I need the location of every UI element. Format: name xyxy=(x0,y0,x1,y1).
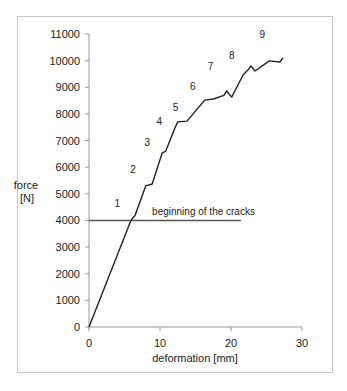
annotations: 123456789 xyxy=(115,29,266,209)
crack-stage-label: 7 xyxy=(208,61,214,72)
crack-stage-label: 1 xyxy=(115,198,121,209)
y-axis-title-line2: [N] xyxy=(20,192,34,204)
y-tick-label: 7000 xyxy=(56,135,80,147)
y-axis: 0100020003000400050006000700080009000100… xyxy=(49,28,89,333)
crack-stage-label: 8 xyxy=(229,50,235,61)
x-tick-label: 10 xyxy=(154,337,166,349)
y-tick-label: 5000 xyxy=(56,188,80,200)
cracks-label: beginning of the cracks xyxy=(152,206,255,217)
force-curve xyxy=(89,58,283,327)
crack-stage-label: 4 xyxy=(157,116,163,127)
y-axis-title-line1: force xyxy=(14,179,38,191)
y-tick-label: 2000 xyxy=(56,268,80,280)
y-tick-label: 10000 xyxy=(49,55,80,67)
y-tick-label: 6000 xyxy=(56,161,80,173)
crack-stage-label: 2 xyxy=(130,164,136,175)
y-tick-label: 4000 xyxy=(56,214,80,226)
x-tick-label: 30 xyxy=(296,337,308,349)
crack-stage-label: 3 xyxy=(144,137,150,148)
y-tick-label: 0 xyxy=(74,321,80,333)
x-axis-title: deformation [mm] xyxy=(152,352,238,364)
y-tick-label: 9000 xyxy=(56,81,80,93)
y-tick-label: 1000 xyxy=(56,294,80,306)
y-tick-label: 11000 xyxy=(50,28,80,40)
data-series xyxy=(89,58,283,327)
crack-stage-label: 5 xyxy=(173,102,179,113)
x-tick-label: 20 xyxy=(225,337,237,349)
crack-stage-label: 9 xyxy=(259,29,265,40)
x-tick-label: 0 xyxy=(86,337,92,349)
crack-stage-label: 6 xyxy=(190,81,196,92)
y-tick-label: 3000 xyxy=(56,241,80,253)
x-axis: 0102030 xyxy=(86,327,308,349)
y-tick-label: 8000 xyxy=(56,108,80,120)
force-deformation-chart: 0100020003000400050006000700080009000100… xyxy=(0,0,347,391)
